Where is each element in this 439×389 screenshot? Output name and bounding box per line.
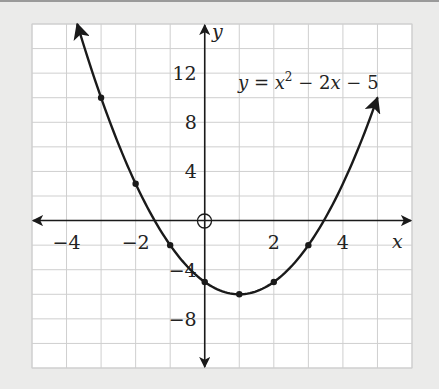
x-tick-label: −2 [122, 231, 150, 253]
x-tick-label: 4 [337, 231, 349, 253]
data-point [305, 242, 311, 248]
parabola-chart: −4−2241284−4−8 y x y = x2 − 2x − 5 [0, 0, 439, 389]
x-tick-label: 2 [268, 231, 280, 253]
y-tick-label: 12 [173, 62, 197, 84]
data-point [132, 181, 138, 187]
data-point [167, 242, 173, 248]
data-point [271, 279, 277, 285]
y-axis-label: y [211, 20, 223, 42]
equation-annotation: y = x2 − 2x − 5 [237, 70, 379, 93]
x-axis-label: x [392, 230, 403, 252]
data-point [202, 279, 208, 285]
data-point [236, 291, 242, 297]
y-tick-label: 8 [185, 111, 197, 133]
data-point [98, 95, 104, 101]
x-tick-label: −4 [53, 231, 81, 253]
y-tick-label: −8 [169, 308, 197, 330]
y-tick-label: 4 [185, 160, 197, 182]
